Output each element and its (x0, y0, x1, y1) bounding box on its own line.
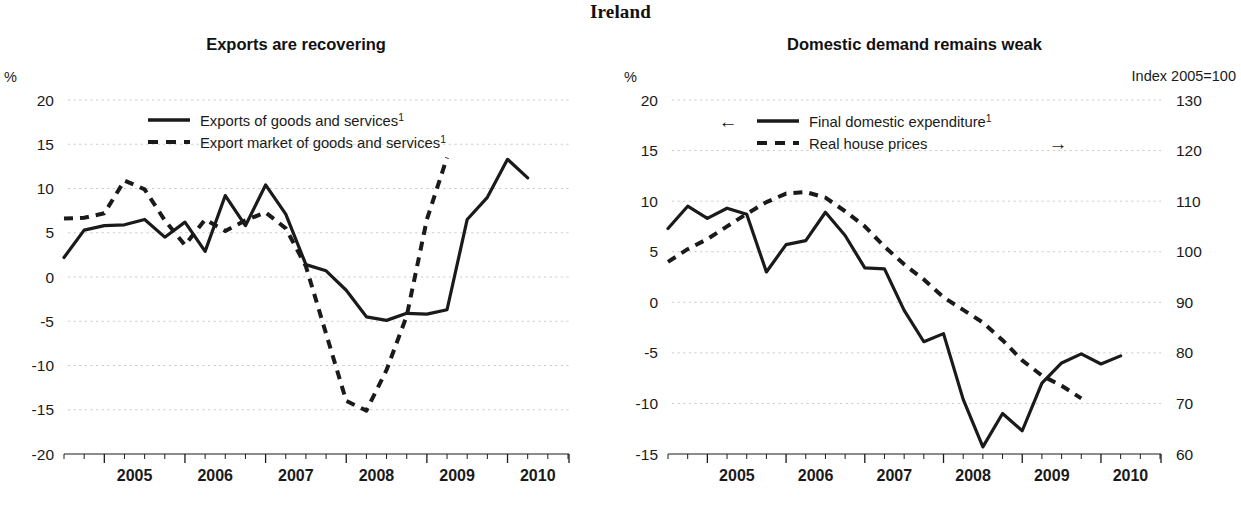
legend-label-2: Real house prices (809, 136, 927, 152)
figure-container: Ireland Exports are recovering % 2015105… (0, 0, 1241, 505)
x-axis-year-label: 2008 (359, 467, 395, 484)
legend-axis-arrow-1: ← (719, 111, 738, 132)
x-axis-year-label: 2007 (877, 467, 913, 484)
x-axis-year-label: 2010 (520, 467, 556, 484)
y2-axis-tick-label: 130 (1176, 92, 1202, 109)
y-axis-tick-label: 20 (37, 92, 55, 109)
panel-domestic-demand-left-unit: % (624, 69, 637, 85)
series-layer (668, 192, 1121, 447)
y-axis-tick-label: -10 (636, 395, 659, 412)
y-axis-tick-label: 20 (641, 92, 659, 109)
panel-domestic-demand: Domestic demand remains weak % Index 200… (620, 0, 1241, 505)
y2-axis-tick-label: 80 (1176, 344, 1194, 361)
y-axis-tick-label: 15 (37, 136, 54, 153)
x-axis-year-label: 2009 (1034, 467, 1070, 484)
legend-label-1: Final domestic expenditure1 (809, 112, 992, 130)
y-axis-tick-label: -15 (636, 446, 658, 463)
legend-right-axis-arrow: → (1049, 133, 1068, 154)
y2-axis-tick-label: 110 (1176, 193, 1201, 210)
y-axis-tick-label: -20 (32, 446, 55, 463)
y-axis-tick-label: 0 (649, 294, 658, 311)
data-line-2 (668, 192, 1081, 398)
y2-axis-tick-label: 120 (1176, 142, 1202, 159)
x-axis-year-label: 2006 (798, 467, 834, 484)
y-axis-tick-label: -5 (644, 344, 658, 361)
panel-exports-title: Exports are recovering (0, 35, 606, 54)
y2-axis-tick-label: 90 (1176, 294, 1194, 311)
y-axis-tick-label: -5 (40, 313, 54, 330)
x-axis-year-label: 2010 (1113, 467, 1149, 484)
panel-domestic-demand-title: Domestic demand remains weak (604, 35, 1225, 54)
data-line-1 (668, 206, 1121, 447)
x-axis-year-label: 2005 (719, 467, 755, 484)
legend: ←Final domestic expenditure1Real house p… (719, 111, 1068, 154)
x-axis-year-label: 2006 (197, 467, 233, 484)
x-axis-year-label: 2009 (439, 467, 475, 484)
legend-label-1: Exports of goods and services1 (200, 111, 404, 129)
y2-axis-tick-label: 60 (1176, 446, 1194, 463)
y-axis-tick-label: -10 (32, 357, 55, 374)
y-axis-tick-label: 15 (641, 142, 658, 159)
y-axis-tick-label: 5 (649, 243, 658, 260)
y2-axis-tick-label: 100 (1176, 243, 1202, 260)
x-axis-year-label: 2008 (955, 467, 991, 484)
series-layer (64, 158, 528, 411)
data-line-2 (64, 158, 447, 411)
y-axis-tick-label: 5 (45, 224, 54, 241)
x-axis-year-label: 2005 (117, 467, 153, 484)
panel-domestic-demand-right-unit: Index 2005=100 (1132, 68, 1236, 84)
panel-exports-plot: 20151050-5-10-15-20200520062007200820092… (0, 0, 620, 505)
panel-exports: Exports are recovering % 20151050-5-10-1… (0, 0, 620, 505)
legend-label-2: Export market of goods and services1 (200, 133, 446, 151)
panel-exports-left-unit: % (4, 69, 17, 85)
y2-axis-tick-label: 70 (1176, 395, 1194, 412)
x-axis-year-label: 2007 (278, 467, 314, 484)
y-axis-tick-label: 10 (641, 193, 659, 210)
y-axis-tick-label: -15 (32, 401, 54, 418)
y-axis-tick-label: 10 (37, 180, 55, 197)
y-axis-tick-label: 0 (45, 269, 54, 286)
